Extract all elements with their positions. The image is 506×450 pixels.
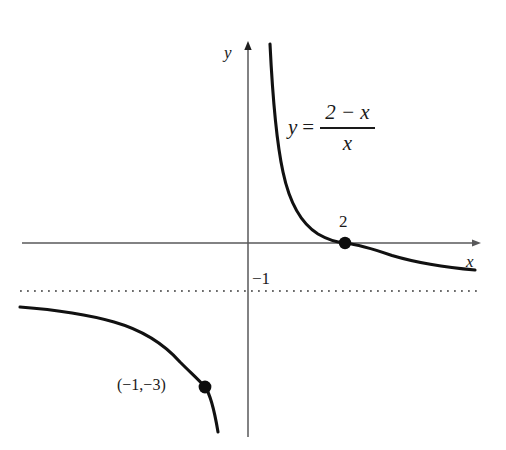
equation-numerator: 2 − x — [320, 100, 375, 127]
equation-fraction: 2 − x x — [320, 100, 375, 156]
horizontal-asymptote-label: −1 — [252, 270, 270, 287]
curve-right-branch — [270, 44, 475, 270]
x-axis — [22, 240, 481, 247]
equation-denominator: x — [338, 129, 357, 156]
graph-figure: y x 2 −1 (−1,−3) y = 2 − x x — [0, 0, 506, 450]
x-axis-label: x — [466, 253, 474, 270]
equation-equals-sign: = — [302, 115, 314, 140]
marked-point-label: (−1,−3) — [117, 377, 166, 393]
y-axis — [244, 41, 251, 437]
curve-left-branch — [20, 307, 218, 432]
x-intercept-label: 2 — [339, 213, 348, 230]
y-axis-label: y — [224, 44, 232, 61]
x-axis-arrowhead — [472, 240, 481, 247]
y-axis-arrowhead — [244, 41, 251, 50]
graph-canvas — [0, 0, 506, 450]
equation-lhs: y — [288, 115, 297, 140]
x-intercept-point-marker — [339, 237, 351, 249]
marked-point-marker — [199, 381, 212, 394]
equation-label: y = 2 − x x — [288, 100, 375, 156]
